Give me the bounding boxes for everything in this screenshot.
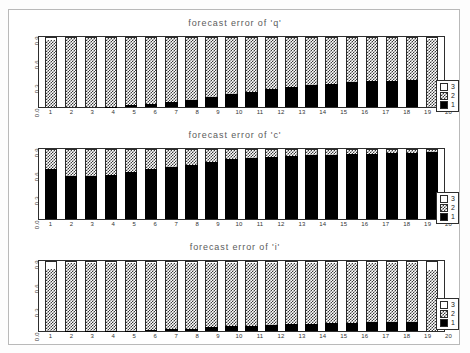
stacked-bar[interactable] bbox=[285, 261, 297, 331]
bar-segment-2 bbox=[65, 150, 77, 176]
bar-segment-1 bbox=[346, 82, 358, 107]
stacked-bar[interactable] bbox=[325, 149, 337, 219]
stacked-bar[interactable] bbox=[245, 149, 257, 219]
stacked-bar[interactable] bbox=[225, 37, 237, 107]
stacked-bar[interactable] bbox=[386, 149, 398, 219]
plot-area-q: 0.0 0.3 0.6 0.9 bbox=[27, 36, 445, 108]
stacked-bar[interactable] bbox=[225, 261, 237, 331]
stacked-bar[interactable] bbox=[145, 37, 157, 107]
bar-segment-1 bbox=[325, 155, 337, 219]
bar-cell bbox=[362, 149, 382, 219]
legend-entry-2[interactable]: 2 bbox=[440, 204, 455, 212]
stacked-bar[interactable] bbox=[85, 261, 97, 331]
stacked-bar[interactable] bbox=[165, 37, 177, 107]
stacked-bar[interactable] bbox=[185, 149, 197, 219]
stacked-bar[interactable] bbox=[65, 261, 77, 331]
stacked-bar[interactable] bbox=[85, 149, 97, 219]
bar-cell bbox=[61, 261, 81, 331]
stacked-bar[interactable] bbox=[205, 37, 217, 107]
stacked-bar[interactable] bbox=[406, 261, 418, 331]
legend-entry-1[interactable]: 1 bbox=[440, 213, 455, 221]
bar-segment-2 bbox=[45, 40, 57, 107]
stacked-bar[interactable] bbox=[346, 149, 358, 219]
stacked-bar[interactable] bbox=[185, 37, 197, 107]
x-tick-label: 16 bbox=[354, 333, 375, 344]
stacked-bar[interactable] bbox=[346, 261, 358, 331]
x-tick-label: 9 bbox=[208, 109, 229, 120]
bar-segment-3 bbox=[426, 261, 438, 270]
x-tick-label: 20 bbox=[438, 333, 459, 344]
stacked-bar[interactable] bbox=[366, 261, 378, 331]
stacked-bar[interactable] bbox=[105, 149, 117, 219]
stacked-bar[interactable] bbox=[185, 261, 197, 331]
legend-entry-2[interactable]: 2 bbox=[440, 92, 455, 100]
bar-segment-1 bbox=[265, 325, 277, 331]
stacked-bar[interactable] bbox=[65, 37, 77, 107]
stacked-bar[interactable] bbox=[305, 37, 317, 107]
bar-segment-1 bbox=[185, 100, 197, 107]
stacked-bar[interactable] bbox=[265, 261, 277, 331]
stacked-bar[interactable] bbox=[265, 37, 277, 107]
stacked-bar[interactable] bbox=[305, 261, 317, 331]
legend-entry-3[interactable]: 3 bbox=[440, 301, 455, 309]
bar-segment-2 bbox=[165, 38, 177, 102]
checker-swatch-icon bbox=[440, 204, 448, 212]
x-tick-label: 16 bbox=[354, 109, 375, 120]
stacked-bar[interactable] bbox=[125, 149, 137, 219]
stacked-bar[interactable] bbox=[125, 37, 137, 107]
stacked-bar[interactable] bbox=[285, 149, 297, 219]
stacked-bar[interactable] bbox=[325, 261, 337, 331]
stacked-bar[interactable] bbox=[45, 37, 57, 107]
legend-c[interactable]: 321 bbox=[436, 192, 459, 224]
stacked-bar[interactable] bbox=[145, 261, 157, 331]
stacked-bar[interactable] bbox=[145, 149, 157, 219]
legend-entry-3[interactable]: 3 bbox=[440, 83, 455, 91]
bar-segment-2 bbox=[45, 150, 57, 169]
bar-segment-1 bbox=[265, 89, 277, 107]
stacked-bar[interactable] bbox=[366, 37, 378, 107]
x-tick-label: 13 bbox=[291, 221, 312, 232]
stacked-bar[interactable] bbox=[105, 37, 117, 107]
stacked-bar[interactable] bbox=[325, 37, 337, 107]
stacked-bar[interactable] bbox=[245, 261, 257, 331]
stacked-bar[interactable] bbox=[65, 149, 77, 219]
stacked-bar[interactable] bbox=[386, 37, 398, 107]
stacked-bar[interactable] bbox=[366, 149, 378, 219]
stacked-bar[interactable] bbox=[205, 261, 217, 331]
stacked-bar[interactable] bbox=[265, 149, 277, 219]
stacked-bar[interactable] bbox=[386, 261, 398, 331]
legend-entry-2[interactable]: 2 bbox=[440, 310, 455, 318]
stacked-bar[interactable] bbox=[285, 37, 297, 107]
legend-entry-1[interactable]: 1 bbox=[440, 319, 455, 327]
bar-segment-2 bbox=[225, 263, 237, 327]
x-tick-label: 5 bbox=[124, 109, 145, 120]
bar-segment-2 bbox=[125, 38, 137, 105]
stacked-bar[interactable] bbox=[225, 149, 237, 219]
x-tick-label: 15 bbox=[333, 109, 354, 120]
stacked-bar[interactable] bbox=[205, 149, 217, 219]
stacked-bar[interactable] bbox=[406, 37, 418, 107]
stacked-bar[interactable] bbox=[346, 37, 358, 107]
legend-entry-3[interactable]: 3 bbox=[440, 195, 455, 203]
stacked-bar[interactable] bbox=[406, 149, 418, 219]
legend-q[interactable]: 321 bbox=[436, 80, 459, 112]
bar-segment-2 bbox=[165, 263, 177, 330]
black-swatch-icon bbox=[440, 213, 448, 221]
bar-segment-2 bbox=[145, 263, 157, 331]
stacked-bar[interactable] bbox=[85, 37, 97, 107]
legend-i[interactable]: 321 bbox=[436, 298, 459, 330]
bar-segment-1 bbox=[145, 104, 157, 107]
stacked-bar[interactable] bbox=[125, 261, 137, 331]
stacked-bar[interactable] bbox=[105, 261, 117, 331]
stacked-bar[interactable] bbox=[245, 37, 257, 107]
legend-entry-1[interactable]: 1 bbox=[440, 101, 455, 109]
bar-segment-1 bbox=[346, 154, 358, 219]
stacked-bar[interactable] bbox=[45, 261, 57, 331]
y-axis-q: 0.0 0.3 0.6 0.9 bbox=[27, 36, 37, 108]
bar-cell bbox=[161, 149, 181, 219]
stacked-bar[interactable] bbox=[45, 149, 57, 219]
chart-panel-i: forecast error of 'i' 0.0 0.3 0.6 0.9 12… bbox=[9, 236, 461, 346]
stacked-bar[interactable] bbox=[305, 149, 317, 219]
stacked-bar[interactable] bbox=[165, 149, 177, 219]
stacked-bar[interactable] bbox=[165, 261, 177, 331]
